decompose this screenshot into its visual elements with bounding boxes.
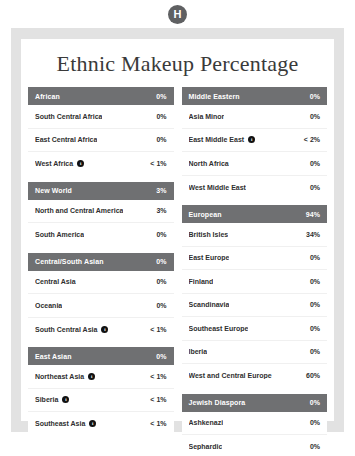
table-row[interactable]: Northeast Asiai< 1% <box>28 365 174 389</box>
row-label: Finland <box>189 278 214 285</box>
row-label-wrap: Southeast Asiai <box>35 420 96 427</box>
row-value: < 1% <box>150 160 166 167</box>
row-value: 0% <box>156 278 166 285</box>
table-row[interactable]: Ashkenazi0% <box>182 412 328 436</box>
row-value: < 1% <box>150 420 166 427</box>
row-label-wrap: West Africai <box>35 160 84 167</box>
row-label: North Africa <box>189 160 229 167</box>
table-row[interactable]: British Isles34% <box>182 223 328 247</box>
table-row[interactable]: Finland0% <box>182 270 328 294</box>
row-label: Ashkenazi <box>189 419 224 426</box>
page-title: Ethnic Makeup Percentage <box>27 45 328 87</box>
row-label: South Central Asia <box>35 326 97 333</box>
table-row[interactable]: Asia Minor0% <box>182 105 328 129</box>
column-left: African0%South Central Africa0%East Cent… <box>28 87 174 456</box>
region-group-label: Middle Eastern <box>189 93 240 100</box>
row-label: West Africa <box>35 160 73 167</box>
row-label-wrap: South America <box>35 231 84 238</box>
row-label: North and Central America <box>35 207 123 214</box>
table-row[interactable]: West and Central Europe60% <box>182 364 328 388</box>
region-group-label: New World <box>35 187 72 194</box>
columns-container: African0%South Central Africa0%East Cent… <box>27 87 328 456</box>
row-label: Central Asia <box>35 278 76 285</box>
table-row[interactable]: Scandinavia0% <box>182 294 328 318</box>
table-row[interactable]: Siberiai< 1% <box>28 389 174 413</box>
top-badge-row: H <box>0 0 355 28</box>
row-value: 0% <box>310 348 320 355</box>
region-group-header[interactable]: Middle Eastern0% <box>182 87 328 105</box>
info-icon[interactable]: i <box>248 136 255 143</box>
table-row[interactable]: West Middle East0% <box>182 176 328 200</box>
table-row[interactable]: Iberia0% <box>182 341 328 365</box>
region-group-label: African <box>35 93 60 100</box>
row-label: Southeast Europe <box>189 325 249 332</box>
region-group-header[interactable]: Jewish Diaspora0% <box>182 394 328 412</box>
row-value: 0% <box>310 278 320 285</box>
row-label-wrap: Southeast Europe <box>189 325 249 332</box>
row-label-wrap: Ashkenazi <box>189 419 224 426</box>
row-label-wrap: West Middle East <box>189 184 246 191</box>
region-group: Middle Eastern0%Asia Minor0%East Middle … <box>182 87 328 199</box>
table-row[interactable]: South America0% <box>28 223 174 247</box>
row-value: < 1% <box>150 373 166 380</box>
row-value: 0% <box>310 301 320 308</box>
row-label: Iberia <box>189 348 208 355</box>
table-row[interactable]: West Africai< 1% <box>28 152 174 176</box>
region-rows: Ashkenazi0%Sephardic0% <box>182 412 328 456</box>
region-group: New World3%North and Central America3%So… <box>28 182 174 247</box>
row-label-wrap: Northeast Asiai <box>35 373 95 380</box>
region-group-header[interactable]: European94% <box>182 205 328 223</box>
region-group-header[interactable]: New World3% <box>28 182 174 200</box>
table-row[interactable]: Sephardic0% <box>182 435 328 456</box>
row-label: East Central Africa <box>35 136 97 143</box>
region-group-value: 3% <box>156 187 166 194</box>
info-icon[interactable]: i <box>88 373 95 380</box>
table-row[interactable]: Southeast Asiai< 1% <box>28 412 174 436</box>
region-group-header[interactable]: East Asian0% <box>28 347 174 365</box>
region-group-value: 0% <box>156 353 166 360</box>
row-label: West Middle East <box>189 184 246 191</box>
row-label-wrap: Central Asia <box>35 278 76 285</box>
table-row[interactable]: East Central Africa0% <box>28 129 174 153</box>
table-row[interactable]: South Central Asiai< 1% <box>28 318 174 342</box>
table-row[interactable]: East Europe0% <box>182 247 328 271</box>
row-label: British Isles <box>189 231 229 238</box>
info-icon[interactable]: i <box>89 420 96 427</box>
row-label-wrap: Asia Minor <box>189 113 225 120</box>
info-icon[interactable]: i <box>101 326 108 333</box>
table-row[interactable]: North Africa0% <box>182 152 328 176</box>
row-value: 0% <box>310 325 320 332</box>
row-label-wrap: North Africa <box>189 160 229 167</box>
row-label: East Europe <box>189 254 230 261</box>
table-row[interactable]: North and Central America3% <box>28 200 174 224</box>
table-row[interactable]: South Central Africa0% <box>28 105 174 129</box>
region-group-label: European <box>189 211 222 218</box>
region-group-header[interactable]: Central/South Asian0% <box>28 253 174 271</box>
row-value: 34% <box>306 231 320 238</box>
info-icon[interactable]: i <box>62 396 69 403</box>
row-label-wrap: South Central Africa <box>35 113 102 120</box>
table-row[interactable]: Oceania0% <box>28 294 174 318</box>
row-label-wrap: Oceania <box>35 302 62 309</box>
row-value: 0% <box>156 136 166 143</box>
table-row[interactable]: Central Asia0% <box>28 271 174 295</box>
region-group-value: 94% <box>306 211 320 218</box>
row-label: South Central Africa <box>35 113 102 120</box>
row-value: 0% <box>310 113 320 120</box>
row-value: 0% <box>310 443 320 450</box>
screen-root: H Ethnic Makeup Percentage African0%Sout… <box>0 0 355 456</box>
table-row[interactable]: East Middle Easti< 2% <box>182 129 328 153</box>
column-right: Middle Eastern0%Asia Minor0%East Middle … <box>182 87 328 456</box>
row-label-wrap: East Central Africa <box>35 136 97 143</box>
info-icon[interactable]: i <box>77 160 84 167</box>
h-avatar-badge[interactable]: H <box>168 5 187 24</box>
table-row[interactable]: Southeast Europe0% <box>182 317 328 341</box>
row-label: Scandinavia <box>189 301 230 308</box>
region-rows: South Central Africa0%East Central Afric… <box>28 105 174 176</box>
region-rows: Northeast Asiai< 1%Siberiai< 1%Southeast… <box>28 365 174 436</box>
row-value: 0% <box>156 302 166 309</box>
region-group-header[interactable]: African0% <box>28 87 174 105</box>
row-value: 0% <box>310 254 320 261</box>
row-label-wrap: North and Central America <box>35 207 123 214</box>
region-group: African0%South Central Africa0%East Cent… <box>28 87 174 176</box>
